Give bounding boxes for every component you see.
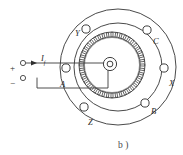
rotor-shaft-core — [107, 61, 113, 67]
stator-slot-C[interactable] — [143, 26, 151, 34]
field-current-arrow-icon — [31, 61, 37, 66]
terminal-label-A: A — [60, 73, 65, 91]
field-current-label: If — [41, 48, 45, 67]
machine-cross-section-diagram — [0, 0, 183, 155]
terminal-label-X: X — [169, 72, 174, 90]
stator-slot-A[interactable] — [62, 64, 70, 72]
stator-slot-X[interactable] — [160, 64, 168, 72]
stator-slot-Z[interactable] — [80, 103, 88, 111]
negative-sign-label: − — [10, 72, 15, 90]
stator-slot-Y[interactable] — [82, 25, 90, 33]
positive-terminal-node[interactable] — [20, 60, 25, 65]
negative-terminal-node[interactable] — [20, 75, 25, 80]
stator-slot-B[interactable] — [141, 99, 149, 107]
terminal-label-Z: Z — [88, 111, 93, 129]
figure-caption: b ) — [118, 134, 128, 152]
terminal-label-B: B — [151, 100, 156, 118]
terminal-label-C: C — [153, 30, 159, 48]
terminal-label-Y: Y — [75, 22, 80, 40]
field-lead-negative-path — [37, 60, 108, 88]
figure-container: + − If Y C A X Z B b ) — [0, 0, 183, 155]
